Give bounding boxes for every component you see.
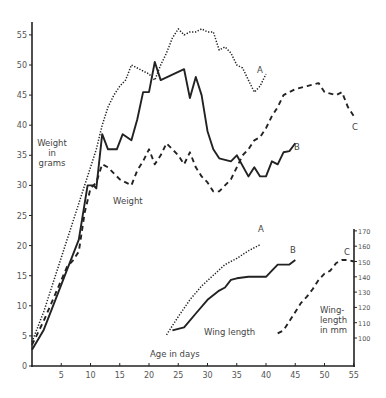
weight-axis-label-line2: in [48,148,56,158]
x-tick-label: 55 [349,371,359,380]
weight-series-b [32,62,295,350]
age-axis-caption: Age in days [150,349,200,359]
y-tick-label: 0 [22,362,27,371]
right-y-tick-label: 150 [358,259,370,267]
weight-axis-label-line1: Weight [37,138,67,148]
right-y-tick-label: 160 [358,243,370,251]
y-tick-label: 35 [17,151,27,160]
right-y-tick-label: 110 [358,320,370,328]
axes: 0510152025303540455055 51015202530354045… [17,22,371,380]
y-tick-label: 25 [17,212,27,221]
weight-series-b-label: B [294,142,300,152]
x-tick-label: 45 [290,371,300,380]
x-tick-label: 30 [202,371,212,380]
right-y-tick-label: 170 [358,228,370,236]
x-tick-label: 35 [232,371,242,380]
weight-series-c-label: C [352,122,358,132]
y-tick-label: 50 [17,61,27,70]
x-tick-label: 20 [144,371,154,380]
x-tick-label: 40 [261,371,271,380]
x-tick-label: 50 [319,371,329,380]
left-y-ticks: 0510152025303540455055 [17,31,32,371]
right-y-tick-label: 140 [358,274,370,282]
x-tick-label: 15 [115,371,125,380]
weight-axis-label-line3: grams [39,158,66,168]
wing-axis-label-line3: in mm [320,325,347,335]
y-tick-label: 45 [17,91,27,100]
growth-chart: 0510152025303540455055 51015202530354045… [0,0,386,398]
y-tick-label: 15 [17,272,27,281]
weight-series-a [32,29,266,342]
wing-series-b [172,260,295,330]
right-y-tick-label: 130 [358,289,370,297]
weight-series-a-label: A [257,65,263,75]
wing-series-b-label: B [290,245,296,255]
wing-series-a-label: A [258,224,264,234]
wing-series-c-label: C [344,247,350,257]
right-y-ticks: 100110120130140150160170 [354,228,370,343]
right-y-tick-label: 100 [358,335,370,343]
x-tick-label: 5 [59,371,64,380]
wing-series-a [167,245,261,335]
weight-series-c [32,83,354,345]
series-lines [32,29,354,350]
x-tick-label: 25 [173,371,183,380]
y-tick-label: 30 [17,181,27,190]
right-y-tick-label: 120 [358,304,370,312]
weight-caption: Weight [113,196,143,206]
y-tick-label: 40 [17,121,27,130]
wing-axis-label-line1: Wing- [320,305,344,315]
y-tick-label: 20 [17,242,27,251]
wing-length-caption: Wing length [204,327,255,337]
y-tick-label: 10 [17,302,27,311]
y-tick-label: 5 [22,332,27,341]
wing-axis-label-line2: length [320,315,347,325]
y-tick-label: 55 [17,31,27,40]
x-tick-label: 10 [85,371,95,380]
